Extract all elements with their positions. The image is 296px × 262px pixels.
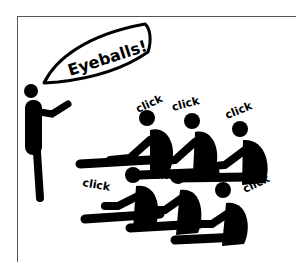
- click-label-5: click: [152, 171, 176, 181]
- cartoon-drawing: Eyeballs!: [0, 0, 296, 262]
- click-label-2: click: [170, 94, 201, 114]
- cartoon-illustration: Eyeballs!: [0, 0, 296, 262]
- seated-figure-3: [175, 121, 268, 185]
- click-label-4: click: [81, 176, 111, 194]
- speech-bubble: Eyeballs!: [44, 24, 150, 83]
- speaker-figure: [24, 84, 68, 198]
- click-label-3: click: [223, 99, 254, 122]
